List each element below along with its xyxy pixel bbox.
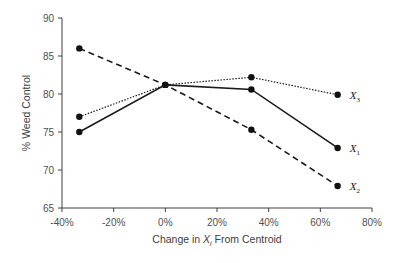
data-point-x3 — [334, 92, 340, 98]
x-tick-label: 0% — [158, 217, 173, 228]
data-point-x3 — [248, 74, 254, 80]
y-tick-label: 90 — [43, 13, 55, 24]
data-point-x3 — [76, 114, 82, 120]
series-labels: X1X2X3 — [349, 89, 361, 195]
series-line-x2 — [79, 48, 337, 186]
series-line-x1 — [79, 85, 337, 148]
data-point-x3 — [162, 82, 168, 88]
series-points — [76, 45, 341, 189]
series-label-x2: X2 — [349, 180, 361, 195]
y-tick-label: 80 — [43, 89, 55, 100]
axes — [62, 18, 372, 208]
series-lines — [79, 48, 337, 186]
x-tick-label: 80% — [362, 217, 382, 228]
data-point-x1 — [76, 129, 82, 135]
x-tick-label: -40% — [50, 217, 73, 228]
x-tick-label: 60% — [310, 217, 330, 228]
y-ticks: 657075808590 — [43, 13, 62, 214]
y-tick-label: 70 — [43, 165, 55, 176]
data-point-x2 — [76, 45, 82, 51]
y-tick-label: 75 — [43, 127, 55, 138]
y-tick-label: 65 — [43, 203, 55, 214]
series-label-x3: X3 — [349, 89, 361, 104]
x-tick-label: -20% — [102, 217, 125, 228]
x-tick-label: 20% — [207, 217, 227, 228]
data-point-x2 — [248, 127, 254, 133]
line-chart: % Weed Control 657075808590 -40%-20%0%20… — [0, 0, 399, 263]
series-label-x1: X1 — [349, 142, 361, 157]
x-axis-title: Change in Xi From Centroid — [152, 233, 282, 247]
x-ticks: -40%-20%0%20%40%60%80% — [50, 208, 382, 228]
data-point-x1 — [334, 145, 340, 151]
y-tick-label: 85 — [43, 51, 55, 62]
y-axis-title: % Weed Control — [20, 75, 32, 151]
data-point-x1 — [248, 86, 254, 92]
data-point-x2 — [334, 183, 340, 189]
svg-text:% Weed Control: % Weed Control — [20, 75, 32, 151]
x-tick-label: 40% — [259, 217, 279, 228]
